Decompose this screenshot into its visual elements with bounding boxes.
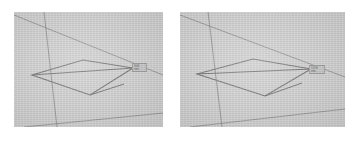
dimension-label[interactable]: 12.94 mm (309, 65, 325, 74)
left-viewport[interactable]: 8.46 mm (14, 12, 163, 127)
ground-diagonal-line (190, 109, 345, 127)
right-viewport[interactable]: 12.94 mm (180, 12, 345, 127)
quad-diagonal-line (32, 68, 133, 75)
ground-diagonal-line (24, 113, 163, 127)
dimension-label-unit: mm (310, 70, 324, 74)
quad-spur-line (90, 84, 124, 95)
wireframe-quad-shape (32, 60, 133, 95)
dimension-label[interactable]: 8.46 mm (132, 63, 147, 72)
dimension-label-unit: mm (133, 68, 146, 72)
screenshot-stage: 8.46 mm 12.94 mm (0, 0, 353, 141)
